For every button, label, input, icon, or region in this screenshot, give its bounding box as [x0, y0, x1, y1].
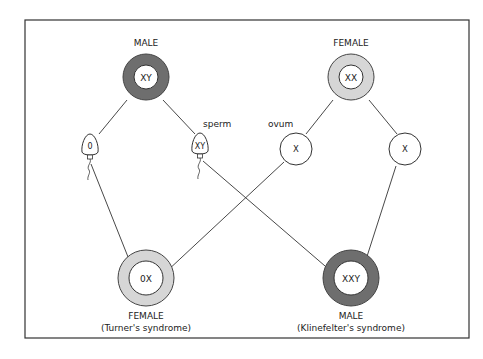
klinefelter-condition: (Klinefelter's syndrome) — [297, 323, 405, 333]
turner-condition: (Turner's syndrome) — [101, 323, 191, 333]
sperm-tail-icon — [198, 158, 201, 179]
klinefelter-genotype: XXY — [342, 274, 360, 284]
parent-male: MALE XY — [123, 38, 169, 100]
parent-female-label: FEMALE — [333, 38, 369, 48]
turner-sex-label: FEMALE — [128, 311, 164, 321]
ovum-1-genotype: X — [293, 144, 299, 154]
sperm-midpiece — [198, 154, 203, 158]
sperm-label: sperm — [203, 119, 231, 129]
diagram-frame — [25, 20, 469, 338]
ovum-label: ovum — [268, 119, 293, 129]
offspring-klinefelter: XXY MALE (Klinefelter's syndrome) — [297, 250, 405, 333]
sperm-midpiece — [88, 155, 93, 159]
turner-genotype: 0X — [140, 274, 152, 284]
offspring-turner: 0X FEMALE (Turner's syndrome) — [101, 250, 191, 333]
sperm-xy-genotype: XY — [195, 142, 205, 151]
sperm-0: 0 — [82, 134, 98, 180]
nondisjunction-diagram: MALE XY FEMALE XX sperm ovum 0 XY X X — [0, 0, 483, 359]
parent-male-label: MALE — [134, 38, 159, 48]
sperm-0-genotype: 0 — [87, 142, 92, 151]
connector-lines — [91, 100, 397, 272]
female-genotype: XX — [345, 73, 357, 83]
parent-female: FEMALE XX — [328, 38, 374, 100]
sperm-tail-icon — [88, 159, 91, 180]
ovum-2: X — [389, 133, 421, 165]
male-genotype: XY — [140, 73, 152, 83]
ovum-2-genotype: X — [402, 144, 408, 154]
klinefelter-sex-label: MALE — [339, 311, 364, 321]
ovum-1: X — [280, 133, 312, 165]
sperm-xy: XY — [192, 133, 208, 179]
